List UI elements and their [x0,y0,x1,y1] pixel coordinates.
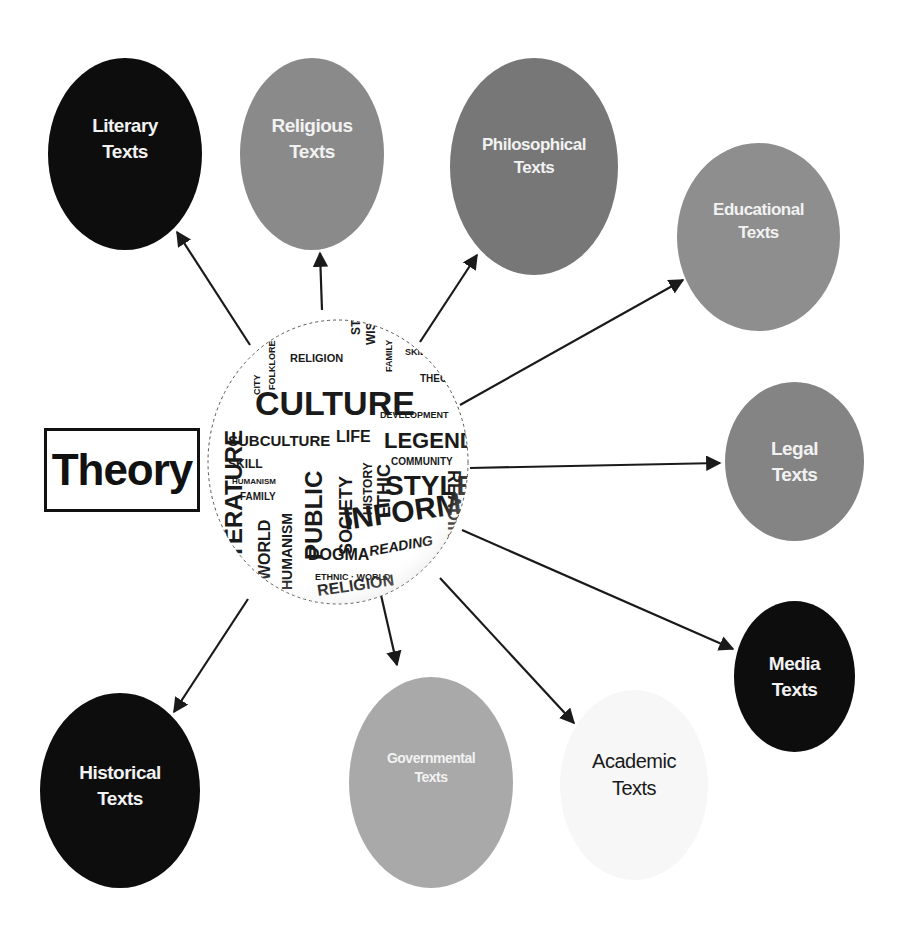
svg-text:KNOWLEDGE: KNOWLEDGE [328,603,409,628]
node-governmental-line2: Texts [414,768,447,787]
node-academic-line1: Academic [592,748,676,775]
node-philosophical-line1: Philosophical [482,134,586,157]
svg-text:SOCIAL: SOCIAL [213,362,224,400]
diagram-canvas: BOOK RELIGION STYLE WISDOM FAMILY SKILL … [0,0,904,934]
node-educational-texts: Educational Texts [677,143,840,331]
node-media-texts: Media Texts [734,601,855,752]
node-legal-line1: Legal [771,436,818,462]
node-academic-line2: Texts [612,775,656,802]
node-religious-texts: Religious Texts [240,58,384,250]
node-governmental-line1: Governmental [387,749,475,768]
node-literary-line2: Texts [102,139,148,165]
node-literary-line1: Literary [92,113,158,139]
node-legal-line2: Texts [772,462,818,488]
node-academic-texts: Academic Texts [560,690,708,880]
node-philosophical-texts: Philosophical Texts [450,58,618,275]
node-governmental-texts: Governmental Texts [349,677,513,888]
svg-text:DEVELOPMENT ART: DEVELOPMENT ART [330,604,421,614]
node-historical-texts: Historical Texts [40,693,200,888]
theory-label: Theory [44,428,200,512]
node-religious-line1: Religious [271,113,352,139]
node-media-line2: Texts [772,677,818,703]
node-educational-line1: Educational [713,199,804,222]
node-religious-line2: Texts [289,139,335,165]
node-educational-line2: Texts [738,222,779,245]
node-literary-texts: Literary Texts [48,58,202,250]
node-legal-texts: Legal Texts [725,382,864,541]
node-historical-line2: Texts [97,786,143,812]
node-philosophical-line2: Texts [514,157,555,180]
node-historical-line1: Historical [79,760,161,786]
node-media-line1: Media [769,651,820,677]
